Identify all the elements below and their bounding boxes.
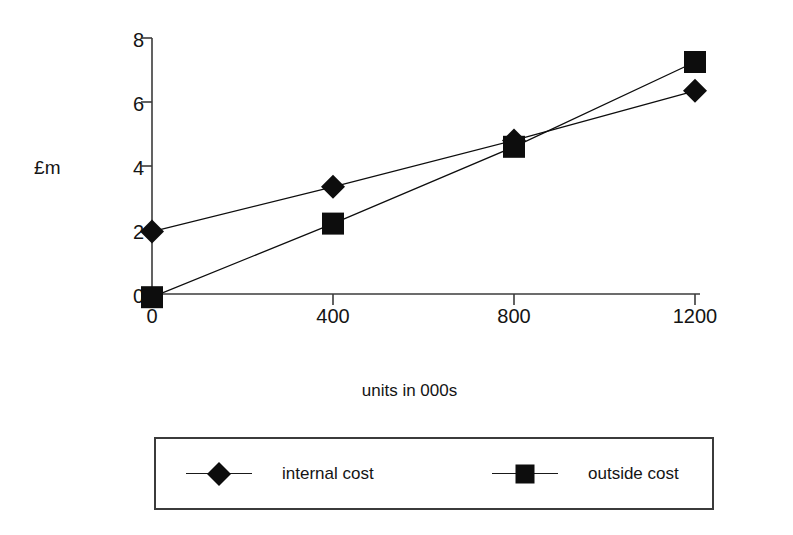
series-layer — [140, 51, 707, 308]
legend-label-outside-cost: outside cost — [588, 464, 679, 484]
legend-marker-diamond-icon — [186, 462, 252, 486]
data-point-outside-cost-800 — [503, 136, 525, 158]
data-point-outside-cost-1200 — [684, 51, 706, 73]
legend-entry-internal-cost[interactable]: internal cost — [186, 439, 374, 508]
legend-entry-outside-cost[interactable]: outside cost — [492, 439, 679, 508]
line-chart-figure: £m 0 2 4 6 8 0 400 800 1200 intern — [0, 0, 793, 535]
legend-label-internal-cost: internal cost — [282, 464, 374, 484]
legend-marker-square-icon — [492, 462, 558, 486]
plot-area — [0, 0, 793, 420]
data-point-internal-cost-400 — [321, 175, 345, 199]
x-axis-title-text: units in 000s — [362, 381, 457, 400]
data-point-internal-cost-1200 — [683, 79, 707, 103]
data-point-outside-cost-400 — [322, 213, 344, 235]
data-point-outside-cost-0 — [141, 286, 163, 308]
series-line-internal-cost — [152, 91, 695, 232]
x-axis-title: units in 000s — [0, 381, 793, 401]
data-point-internal-cost-0 — [140, 220, 164, 244]
legend: internal cost outside cost — [154, 437, 714, 510]
series-line-outside-cost — [152, 62, 695, 297]
